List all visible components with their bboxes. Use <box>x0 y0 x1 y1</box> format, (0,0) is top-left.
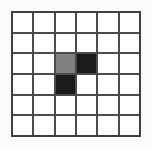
grid-cell-r4-c1[interactable] <box>13 75 32 94</box>
grid-cell-r2-c5[interactable] <box>98 34 117 53</box>
grid-cell-r1-c5[interactable] <box>98 13 117 32</box>
grid-cell-r5-c2[interactable] <box>34 96 53 115</box>
grid-cell-r4-c6[interactable] <box>120 75 139 94</box>
grid-cell-r6-c3[interactable] <box>56 116 75 135</box>
grid-cell-r2-c3[interactable] <box>56 34 75 53</box>
grid-cell-r3-c4[interactable] <box>77 54 96 73</box>
grid-cell-r1-c4[interactable] <box>77 13 96 32</box>
grid-cell-r3-c6[interactable] <box>120 54 139 73</box>
grid-cell-r1-c6[interactable] <box>120 13 139 32</box>
grid-cell-r5-c4[interactable] <box>77 96 96 115</box>
grid-cell-r5-c3[interactable] <box>56 96 75 115</box>
grid-cell-r1-c2[interactable] <box>34 13 53 32</box>
grid-cell-r2-c2[interactable] <box>34 34 53 53</box>
grid-cell-r1-c3[interactable] <box>56 13 75 32</box>
grid-cell-r4-c4[interactable] <box>77 75 96 94</box>
grid-cell-r5-c5[interactable] <box>98 96 117 115</box>
grid-cell-r2-c1[interactable] <box>13 34 32 53</box>
grid-cell-r6-c4[interactable] <box>77 116 96 135</box>
grid-cell-r6-c6[interactable] <box>120 116 139 135</box>
grid-cell-r4-c5[interactable] <box>98 75 117 94</box>
grid-cell-r2-c4[interactable] <box>77 34 96 53</box>
grid-cell-r4-c2[interactable] <box>34 75 53 94</box>
grid-cell-r3-c2[interactable] <box>34 54 53 73</box>
grid-cell-r1-c1[interactable] <box>13 13 32 32</box>
grid-cell-r5-c6[interactable] <box>120 96 139 115</box>
grid-cell-r2-c6[interactable] <box>120 34 139 53</box>
grid-cell-r5-c1[interactable] <box>13 96 32 115</box>
grid-cell-r3-c1[interactable] <box>13 54 32 73</box>
grid-cell-r6-c5[interactable] <box>98 116 117 135</box>
grid-cell-r4-c3[interactable] <box>56 75 75 94</box>
grid-cell-r6-c2[interactable] <box>34 116 53 135</box>
grid-cell-r6-c1[interactable] <box>13 116 32 135</box>
grid-cell-r3-c5[interactable] <box>98 54 117 73</box>
grid-cell-r3-c3[interactable] <box>56 54 75 73</box>
pixel-grid <box>11 11 141 137</box>
